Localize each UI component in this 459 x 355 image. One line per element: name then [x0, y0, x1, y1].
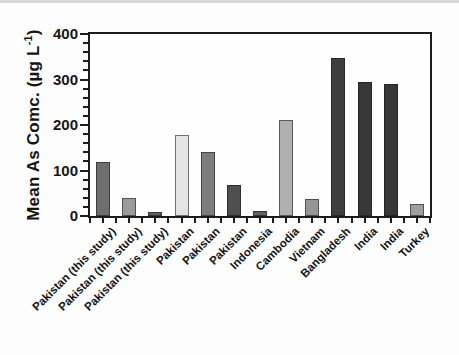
x-axis-tick [324, 218, 326, 223]
y-minor-tick [83, 197, 88, 199]
x-axis-tick [403, 218, 405, 223]
x-axis-tick [259, 218, 261, 223]
plot-area [90, 34, 430, 216]
y-minor-tick [83, 69, 88, 71]
x-axis-tick [89, 218, 91, 223]
x-axis-tick [337, 218, 339, 223]
y-minor-tick [83, 188, 88, 190]
y-minor-tick [83, 97, 88, 99]
x-axis-tick [167, 218, 169, 223]
x-axis-tick [298, 218, 300, 223]
x-axis-tick [364, 218, 366, 223]
y-major-tick [80, 124, 88, 126]
y-minor-tick [83, 206, 88, 208]
y-minor-tick [83, 160, 88, 162]
bar-bangladesh-9 [331, 58, 345, 216]
bar-pakistan-this-study-1 [122, 198, 136, 216]
y-minor-tick [83, 179, 88, 181]
bar-cambodia-7 [279, 120, 293, 216]
x-axis-tick [390, 218, 392, 223]
x-axis-tick [272, 218, 274, 223]
bar-pakistan-this-study-0 [96, 162, 110, 216]
bar-pakistan-this-study-2 [148, 212, 162, 216]
bar-pakistan-3 [175, 135, 189, 216]
bar-vietnam-8 [305, 199, 319, 216]
y-minor-tick [83, 106, 88, 108]
bar-pakistan-5 [227, 185, 241, 216]
y-minor-tick [83, 133, 88, 135]
x-axis-tick [115, 218, 117, 223]
bar-turkey-12 [410, 204, 424, 216]
y-major-tick [80, 215, 88, 217]
x-axis-tick [220, 218, 222, 223]
bar-chart-figure: Mean As Comc. (µg L-1) 0100200300400Paki… [0, 0, 459, 355]
y-minor-tick [83, 151, 88, 153]
bar-india-11 [384, 84, 398, 216]
bar-india-10 [358, 82, 372, 216]
y-major-tick [80, 79, 88, 81]
x-axis-tick [102, 218, 104, 223]
y-tick-label: 0 [28, 207, 78, 225]
x-axis-tick [194, 218, 196, 223]
y-tick-label: 400 [28, 25, 78, 43]
bar-pakistan-4 [201, 152, 215, 216]
x-axis-tick [429, 218, 431, 223]
y-minor-tick [83, 60, 88, 62]
x-axis-tick [207, 218, 209, 223]
y-minor-tick [83, 115, 88, 117]
x-axis-tick [128, 218, 130, 223]
x-axis-tick [311, 218, 313, 223]
x-axis-tick [285, 218, 287, 223]
x-axis-tick [233, 218, 235, 223]
x-axis-tick [141, 218, 143, 223]
y-minor-tick [83, 88, 88, 90]
y-major-tick [80, 33, 88, 35]
x-axis-tick [351, 218, 353, 223]
y-tick-label: 100 [28, 162, 78, 180]
y-major-tick [80, 170, 88, 172]
x-axis-tick [181, 218, 183, 223]
y-minor-tick [83, 142, 88, 144]
x-axis-tick [154, 218, 156, 223]
y-tick-label: 200 [28, 116, 78, 134]
y-minor-tick [83, 51, 88, 53]
y-tick-label: 300 [28, 71, 78, 89]
x-axis-tick [246, 218, 248, 223]
x-axis-label: India [352, 225, 379, 252]
scan-artifact-band [0, 0, 459, 3]
y-minor-tick [83, 42, 88, 44]
x-axis-tick [377, 218, 379, 223]
bar-indonesia-6 [253, 211, 267, 216]
x-axis-tick [416, 218, 418, 223]
